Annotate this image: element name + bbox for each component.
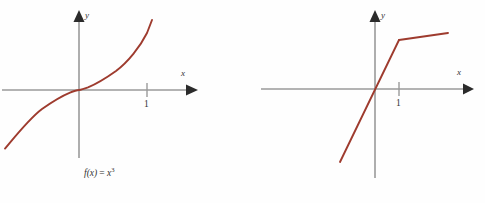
x-axis-label: x [180,68,185,78]
y-axis-label: y [380,10,385,20]
chart-panel-piecewise: x y 1 f(x)= { 2x, x < 1 12x +32, x ≥ 1 ] [243,0,485,203]
cubic-plot-svg: x y 1 [0,0,243,203]
x-axis-label: x [456,67,461,77]
piecewise-segment-steep [340,40,399,162]
x-axis-arrowhead [186,85,198,96]
y-axis-label: y [84,10,89,20]
caption-cubic: f(x)= x3 [84,166,114,178]
x-tick-label-1: 1 [396,98,401,108]
chart-panel-cubic: x y 1 f(x)= x3 [0,0,243,203]
y-axis-arrowhead [370,10,381,22]
piecewise-segment-shallow [399,33,448,40]
x-axis-arrowhead [463,84,474,95]
x-tick-label-1: 1 [144,99,149,109]
y-axis-arrowhead [74,10,85,22]
caption-equals: = [99,168,104,178]
piecewise-plot-svg: x y 1 [243,0,485,203]
caption-exponent: 3 [111,166,114,173]
figure-canvas: x y 1 f(x)= x3 x y 1 f(x)= [0,0,485,203]
caption-function-name: f(x) [84,168,97,178]
